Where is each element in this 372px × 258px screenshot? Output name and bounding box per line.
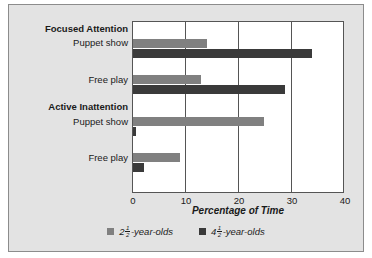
bar-series-container bbox=[133, 22, 343, 192]
legend-denominator-4half: 2 bbox=[217, 232, 222, 238]
group-label-active-inattention: Active Inattention bbox=[48, 102, 128, 112]
bar-inattention-freeplay-4half bbox=[133, 163, 144, 172]
legend-numerator-2half: 1 bbox=[125, 225, 130, 232]
group-label-focused-attention: Focused Attention bbox=[45, 24, 128, 34]
legend-swatch-2half bbox=[107, 228, 114, 235]
category-label-inattention-puppet-show: Puppet show bbox=[73, 117, 128, 127]
x-axis-title: Percentage of Time bbox=[132, 205, 344, 216]
legend-suffix-2half: -year-olds bbox=[131, 226, 173, 237]
legend-whole-4half: 4 bbox=[211, 226, 216, 237]
legend-numerator-4half: 1 bbox=[217, 225, 222, 232]
chart-legend: 212-year-olds 412-year-olds bbox=[9, 225, 363, 238]
legend-item-2half-year-olds: 212-year-olds bbox=[107, 225, 173, 238]
bar-inattention-puppet-2half bbox=[133, 117, 264, 126]
bar-focused-puppet-2half bbox=[133, 39, 207, 48]
legend-fraction-2half: 12 bbox=[125, 225, 130, 238]
legend-item-4half-year-olds: 412-year-olds bbox=[199, 225, 265, 238]
category-label-inattention-free-play: Free play bbox=[88, 153, 128, 163]
plot-area: Focused Attention Puppet show Free play … bbox=[132, 21, 344, 193]
chart-figure: Focused Attention Puppet show Free play … bbox=[8, 4, 364, 252]
legend-swatch-4half bbox=[199, 228, 206, 235]
legend-suffix-4half: -year-olds bbox=[223, 226, 265, 237]
bar-inattention-puppet-4half bbox=[133, 127, 136, 136]
legend-label-2half: 212-year-olds bbox=[119, 225, 173, 238]
bar-inattention-freeplay-2half bbox=[133, 153, 180, 162]
bar-focused-freeplay-4half bbox=[133, 85, 285, 94]
legend-whole-2half: 2 bbox=[119, 226, 124, 237]
legend-denominator-2half: 2 bbox=[125, 232, 130, 238]
category-label-focused-puppet-show: Puppet show bbox=[73, 38, 128, 48]
bar-focused-puppet-4half bbox=[133, 49, 312, 58]
category-label-focused-free-play: Free play bbox=[88, 75, 128, 85]
bar-focused-freeplay-2half bbox=[133, 75, 201, 84]
legend-label-4half: 412-year-olds bbox=[211, 225, 265, 238]
legend-fraction-4half: 12 bbox=[217, 225, 222, 238]
